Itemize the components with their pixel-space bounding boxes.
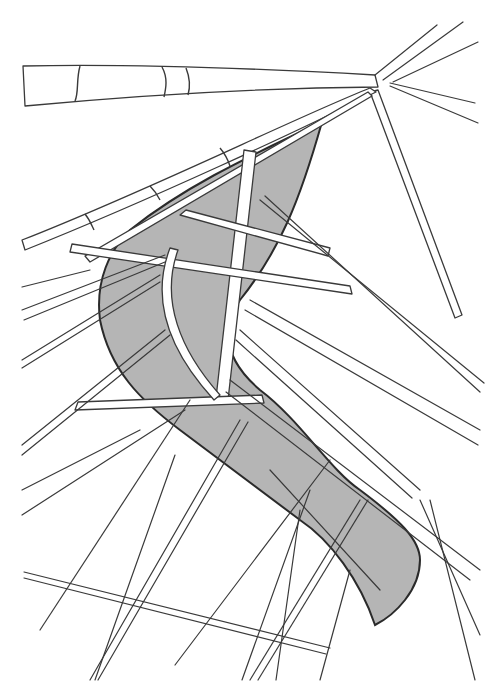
rod bbox=[22, 270, 90, 287]
right-leg bbox=[370, 90, 462, 318]
apex-tip bbox=[393, 42, 478, 82]
apex-tip bbox=[390, 83, 475, 103]
bamboo-structure-sketch bbox=[0, 0, 492, 682]
top-pole bbox=[23, 65, 378, 106]
rod bbox=[40, 400, 190, 630]
rod bbox=[250, 500, 360, 680]
rod bbox=[420, 500, 480, 635]
rod bbox=[24, 578, 326, 654]
rod bbox=[24, 572, 330, 648]
rod bbox=[276, 510, 300, 680]
rod bbox=[90, 420, 240, 680]
apex-tip bbox=[383, 22, 463, 80]
rod bbox=[320, 570, 350, 680]
rod bbox=[22, 430, 140, 490]
apex-tip bbox=[375, 25, 437, 75]
rod bbox=[175, 460, 330, 665]
apex-tip bbox=[390, 86, 478, 123]
rod bbox=[430, 500, 475, 680]
